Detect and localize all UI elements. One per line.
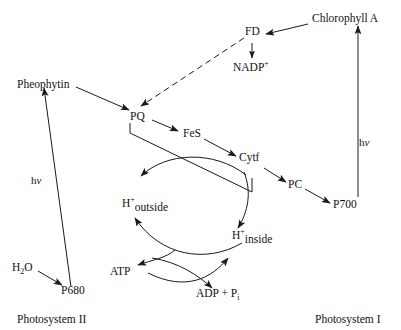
node-fes: FeS <box>183 128 201 140</box>
arrow-pq-to-fes <box>152 120 178 131</box>
node-p700: P700 <box>333 199 357 211</box>
arrow-pc-to-p700 <box>305 189 330 203</box>
nadp-charge: + <box>264 59 269 68</box>
node-pc: PC <box>288 179 302 191</box>
node-fd: FD <box>245 26 260 38</box>
diagram-canvas <box>0 0 401 330</box>
photon-label-photosystem-i: hv <box>359 137 369 148</box>
system-label-photosystem-ii: Photosystem II <box>17 314 86 326</box>
arc-to-h-outside <box>141 157 246 176</box>
arrow-pheophytin-to-pq <box>76 87 129 110</box>
arrow-water-to-p680 <box>38 271 62 285</box>
arc-to-h-inside <box>238 172 248 228</box>
node-cytf: Cytf <box>239 152 259 164</box>
arrow-to-adp-pi <box>152 258 212 288</box>
water-o: O <box>24 261 32 273</box>
arrow-cytf-to-pc <box>264 168 286 182</box>
photon-nu-left: v <box>37 174 42 186</box>
arrow-fd-to-pq-cyclic-dashed <box>141 38 244 106</box>
h-outside-side: outside <box>135 201 168 213</box>
nadp-text: NADP <box>233 61 264 73</box>
node-p680: P680 <box>61 285 85 297</box>
adp-pi-subscript: i <box>237 293 239 302</box>
node-nadp: NADP+ <box>233 60 269 73</box>
node-pq: PQ <box>130 111 145 123</box>
system-label-photosystem-i: Photosystem I <box>315 314 381 326</box>
photosynthesis-z-scheme-diagram: Pheophytin PQ FeS Cytf PC FD NADP+ Chlor… <box>0 0 401 330</box>
node-atp: ATP <box>110 266 130 278</box>
node-pheophytin: Pheophytin <box>17 79 69 91</box>
arrow-fes-to-cytf <box>204 139 236 156</box>
arrow-chlorophylla-to-fd <box>266 24 308 34</box>
arc-h-inside-to-h-outside <box>135 218 242 254</box>
node-water: H2O <box>12 262 33 276</box>
node-chlorophyll-a: Chlorophyll A <box>312 13 378 25</box>
node-h-plus-inside: H+inside <box>232 228 272 241</box>
photon-label-photosystem-ii: hv <box>31 175 41 186</box>
arrow-p680-to-pheophytin <box>44 88 71 287</box>
node-adp-pi: ADP + Pi <box>196 288 239 302</box>
photon-nu-right: v <box>365 136 370 148</box>
h-inside-side: inside <box>245 233 272 245</box>
adp-pi-text: ADP + P <box>196 287 237 299</box>
node-h-plus-outside: H+outside <box>122 196 168 209</box>
arrow-to-atp <box>138 250 175 265</box>
